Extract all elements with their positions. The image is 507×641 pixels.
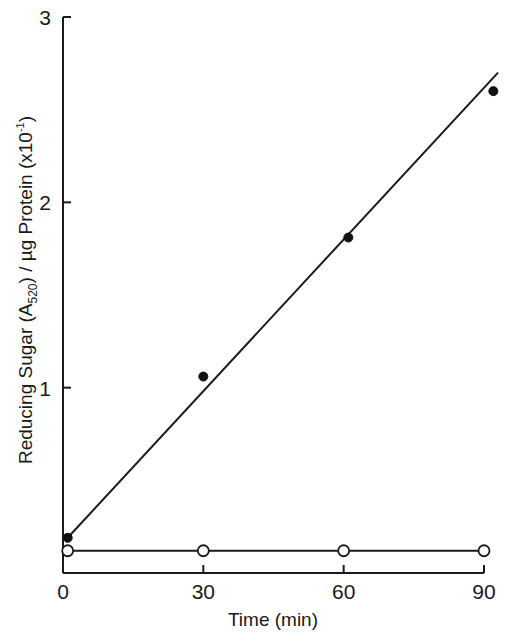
filled-data-point [199,372,208,381]
axes: 0306090123 [39,6,495,603]
open-data-point [338,545,349,556]
open-data-point [479,545,490,556]
open-data-point [62,545,73,556]
axis-labels: Time (min) Reducing Sugar (A520) / µg Pr… [14,116,318,630]
chart: 0306090123 Time (min) Reducing Sugar (A5… [0,0,507,641]
y-axis-label: Reducing Sugar (A520) / µg Protein (x10-… [14,116,40,464]
filled-data-point [63,533,72,542]
filled-data-point [344,233,353,242]
x-tick-label: 90 [472,580,495,603]
y-tick-label: 1 [39,377,51,400]
y-tick-label: 3 [39,6,51,29]
open-data-point [198,545,209,556]
plot-area [62,73,498,557]
x-tick-label: 30 [192,580,215,603]
x-tick-label: 60 [332,580,355,603]
filled-data-point [489,87,498,96]
y-tick-label: 2 [39,191,51,214]
regression-line [68,73,498,538]
x-tick-label: 0 [57,580,69,603]
x-axis-label: Time (min) [228,609,318,630]
